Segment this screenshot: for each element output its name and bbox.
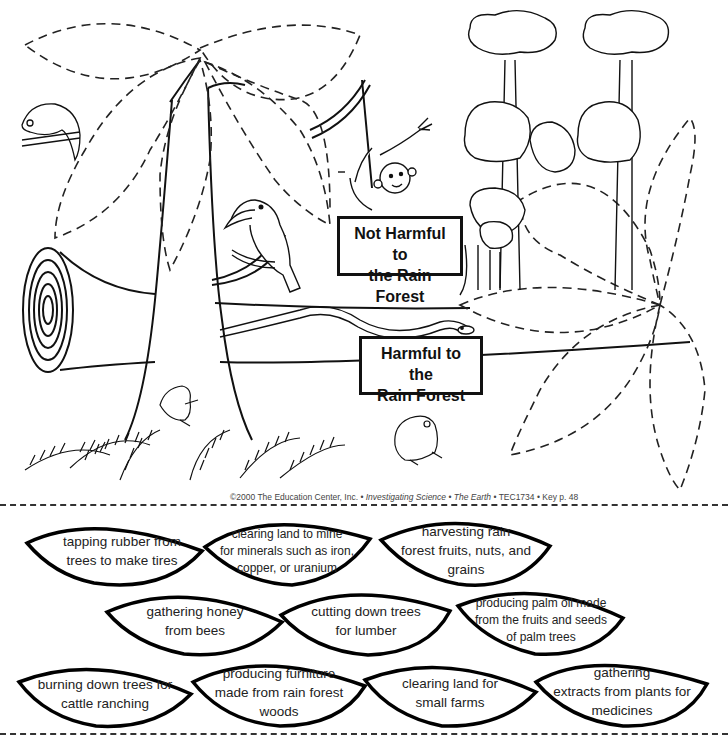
copyright-prefix: ©2000 The Education Center, Inc. •	[230, 492, 366, 502]
harmful-sign-line1: Harmful to the	[368, 343, 474, 385]
copyright-volume: The Earth	[454, 492, 491, 502]
leaf-card-line: of palm trees	[506, 629, 575, 646]
leaf-card-line: from bees	[165, 621, 225, 640]
fern-icon	[25, 430, 345, 480]
leaf-card-line: clearing land to mine	[232, 526, 343, 543]
not-harmful-sign: Not Harmful to the Rain Forest	[337, 216, 463, 276]
leaf-card-fruits[interactable]: harvesting rain forest fruits, nuts, and…	[378, 514, 554, 586]
leaf-card-farms[interactable]: clearing land for small farms	[362, 658, 538, 728]
harmful-sign: Harmful to the Rain Forest	[359, 336, 483, 395]
harmful-sign-line2: Rain Forest	[368, 385, 474, 406]
toucan-icon	[225, 200, 300, 292]
leaf-card-medicines[interactable]: gathering extracts from plants for medic…	[533, 654, 711, 728]
copyright-book: Investigating Science	[366, 492, 446, 502]
leaf-card-line: gathering	[594, 663, 650, 682]
leaf-card-line: trees to make tires	[66, 551, 177, 570]
copyright-sep: •	[446, 492, 454, 502]
copyright-notice: ©2000 The Education Center, Inc. • Inves…	[230, 492, 578, 502]
leaf-card-line: clearing land for	[402, 674, 498, 693]
leaf-card-line: harvesting rain	[422, 522, 511, 541]
chameleon-icon	[22, 104, 80, 160]
cut-line-bottom	[0, 733, 728, 735]
leaf-card-line: medicines	[592, 701, 653, 720]
cut-line-top	[0, 504, 728, 506]
leaf-card-line: cattle ranching	[61, 694, 149, 713]
dashed-leaf-outline-icon	[460, 118, 705, 490]
leaf-card-lumber[interactable]: cutting down trees for lumber	[278, 585, 454, 657]
leaf-card-line: forest fruits, nuts, and	[401, 541, 531, 560]
leaf-card-cattle[interactable]: burning down trees for cattle ranching	[16, 660, 194, 728]
leaf-card-line: extracts from plants for	[553, 682, 690, 701]
leaf-card-line: for lumber	[336, 621, 397, 640]
leaf-card-line: cutting down trees	[311, 602, 421, 621]
not-harmful-sign-line2: the Rain Forest	[346, 265, 454, 307]
leaf-card-rubber[interactable]: tapping rubber from trees to make tires	[24, 517, 204, 585]
leaf-card-palm[interactable]: producing palm oil made from the fruits …	[455, 584, 627, 656]
leaf-card-line: burning down trees for	[38, 675, 172, 694]
leaf-card-line: tapping rubber from	[63, 532, 181, 551]
monkey-icon	[338, 118, 432, 210]
leaf-card-line: gathering honey	[147, 602, 244, 621]
rainforest-trees-icon	[460, 11, 668, 295]
leaf-card-mine[interactable]: clearing land to mine for minerals such …	[202, 517, 372, 585]
toad-icon	[395, 416, 442, 465]
copyright-suffix: • TEC1734 • Key p. 48	[491, 492, 578, 502]
snake-icon	[220, 307, 474, 339]
leaf-card-line: from the fruits and seeds	[475, 612, 607, 629]
not-harmful-sign-line1: Not Harmful to	[346, 223, 454, 265]
rainforest-illustration: Not Harmful to the Rain Forest Harmful t…	[0, 0, 728, 500]
leaf-card-line: made from rain forest	[215, 683, 343, 702]
leaf-card-line: for minerals such as iron,	[220, 543, 354, 560]
leaf-card-line: copper, or uranium	[237, 560, 337, 577]
leaf-card-line: woods	[259, 702, 298, 721]
leaf-card-honey[interactable]: gathering honey from bees	[104, 586, 286, 656]
frog-icon	[160, 386, 198, 426]
leaf-card-line: grains	[448, 560, 485, 579]
leaf-card-line: producing palm oil made	[476, 595, 607, 612]
leaf-card-line: small farms	[415, 693, 484, 712]
leaf-card-line: producing furniture	[223, 664, 336, 683]
leaf-card-furniture[interactable]: producing furniture made from rain fores…	[190, 656, 368, 728]
